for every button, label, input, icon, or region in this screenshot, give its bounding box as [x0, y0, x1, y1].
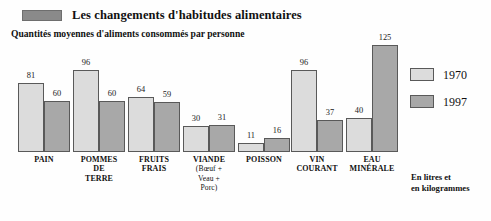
bar-value-label: 60 [44, 90, 70, 98]
legend: 19701997 [410, 68, 467, 122]
legend-label: 1970 [443, 69, 467, 81]
bar-value-label: 125 [372, 34, 398, 42]
legend-item-1970[interactable]: 1970 [410, 68, 467, 81]
bar-value-label: 96 [291, 59, 317, 67]
bar-1970-poisson [238, 143, 264, 152]
bar-value-label: 40 [346, 107, 372, 115]
bar-value-label: 59 [154, 91, 180, 99]
legend-label: 1997 [443, 96, 467, 108]
category-label-main: FRUITS FRAIS [139, 155, 169, 173]
bar-value-label: 37 [317, 109, 343, 117]
category-label-main: VIANDE [193, 155, 225, 164]
footnote-line-1: En litres et [411, 172, 451, 182]
bar-value-label: 81 [18, 72, 44, 80]
category-label-main: POISSON [246, 155, 282, 164]
category-label-eau: EAU MINÉRALE [334, 155, 410, 174]
footnote-line-2: en kilogrammes [411, 183, 469, 193]
bar-value-label: 11 [238, 132, 264, 140]
bar-value-label: 60 [99, 90, 125, 98]
chart-container: Les changements d'habitudes alimentaires… [0, 0, 491, 221]
bar-1997-viande [209, 125, 235, 152]
bar-value-label: 64 [128, 86, 154, 94]
bar-1970-vin [291, 70, 317, 152]
legend-swatch-icon [410, 95, 434, 108]
bar-1970-viande [183, 126, 209, 152]
bar-value-label: 30 [183, 115, 209, 123]
category-label-main: VIN COURANT [296, 155, 337, 173]
category-label-sub: (Bœuf + Veau + Porc) [171, 164, 247, 192]
bar-1997-pain [44, 101, 70, 152]
bar-1970-fruits [128, 97, 154, 152]
units-footnote: En litres et en kilogrammes [411, 172, 469, 193]
bar-value-label: 16 [264, 127, 290, 135]
legend-swatch-icon [410, 68, 434, 81]
bar-1997-poisson [264, 138, 290, 152]
category-label-main: POMMES DE TERRE [81, 155, 118, 183]
bar-1997-eau [372, 45, 398, 152]
legend-item-1997[interactable]: 1997 [410, 95, 467, 108]
bar-value-label: 31 [209, 114, 235, 122]
category-label-main: PAIN [34, 155, 53, 164]
category-label-main: EAU MINÉRALE [350, 155, 395, 173]
bar-1970-eau [346, 118, 372, 152]
bar-1997-pommes [99, 101, 125, 152]
bar-1970-pain [18, 83, 44, 152]
bar-1997-fruits [154, 102, 180, 152]
bar-1970-pommes [73, 70, 99, 152]
bar-1997-vin [317, 120, 343, 152]
plot-area: 81609660645930311116963740125 [0, 0, 400, 160]
bar-value-label: 96 [73, 59, 99, 67]
